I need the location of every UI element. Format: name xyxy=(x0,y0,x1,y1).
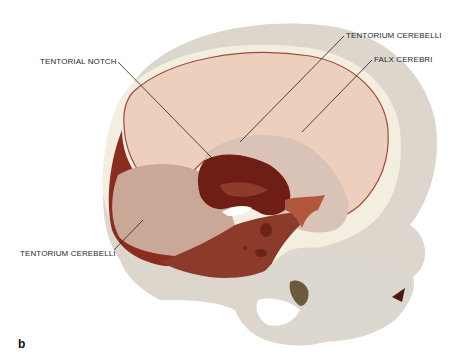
label-falx-cerebri: FALX CEREBRI xyxy=(374,55,433,65)
foramen-1 xyxy=(260,223,272,237)
label-tentorium-cerebelli-left: TENTORIUM CEREBELLI xyxy=(20,249,116,259)
foramen-3 xyxy=(243,246,247,250)
label-tentorial-notch: TENTORIAL NOTCH xyxy=(40,57,117,67)
label-tentorium-cerebelli-top: TENTORIUM CEREBELLI xyxy=(346,31,442,41)
foramen-2 xyxy=(255,249,267,257)
panel-letter: b xyxy=(18,337,25,351)
